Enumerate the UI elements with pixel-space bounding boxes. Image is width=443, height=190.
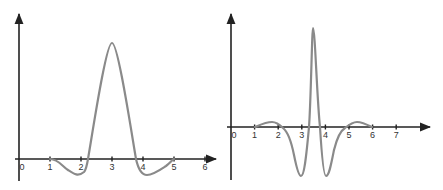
figure: 0123456 01234567 <box>0 0 443 190</box>
x-tick-label: 1 <box>252 130 257 140</box>
x-tick-label: 7 <box>394 130 399 140</box>
x-tick-label: 3 <box>109 162 114 172</box>
left-curve <box>50 43 174 175</box>
x-tick-label: 5 <box>171 162 176 172</box>
x-tick-label: 5 <box>346 130 351 140</box>
x-tick-label: 2 <box>276 130 281 140</box>
x-tick-label: 0 <box>231 130 236 140</box>
right-curve <box>255 28 372 176</box>
x-tick-label: 4 <box>323 130 328 140</box>
x-tick-label: 6 <box>202 162 207 172</box>
x-tick-label: 1 <box>47 162 52 172</box>
x-tick-label: 2 <box>78 162 83 172</box>
right-chart: 01234567 <box>227 14 430 180</box>
x-tick-label: 0 <box>19 162 24 172</box>
x-tick-label: 3 <box>299 130 304 140</box>
x-tick-label: 6 <box>370 130 375 140</box>
left-chart: 0123456 <box>15 14 216 181</box>
